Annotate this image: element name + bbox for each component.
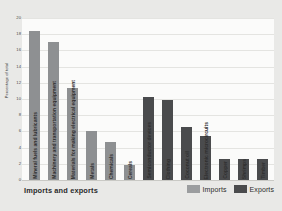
legend-swatch (187, 185, 200, 193)
bar-slot: Shrimps (234, 18, 253, 180)
bar[interactable] (124, 165, 135, 180)
legend-label: Imports (203, 186, 227, 193)
bar-slot: Clothing (158, 18, 177, 180)
y-axis-tick-label: 4 (12, 145, 21, 149)
bar[interactable] (29, 31, 40, 180)
legend-label: Exports (250, 186, 274, 193)
y-axis-tick-label: 6 (12, 129, 21, 133)
bar-slot: Coconut oil (177, 18, 196, 180)
bar[interactable] (257, 159, 268, 180)
legend-swatch (234, 185, 247, 193)
y-axis-tick-label: 20 (12, 16, 21, 20)
bar-slot: Cereals (120, 18, 139, 180)
legend: ImportsExports (187, 185, 274, 193)
bar[interactable] (105, 142, 116, 180)
chart-title: Imports and exports (24, 186, 98, 195)
bar[interactable] (143, 97, 154, 180)
bar-slot: Machinery and transportation equipment (44, 18, 63, 180)
bar[interactable] (200, 136, 211, 180)
bar-slot: Copper (215, 18, 234, 180)
y-axis-tick-label: 16 (12, 48, 21, 52)
chart-footer: Imports and exports ImportsExports (0, 182, 282, 211)
y-axis-tick-label: 8 (12, 113, 21, 117)
y-axis-tick-label: 2 (12, 162, 21, 166)
legend-item[interactable]: Imports (187, 185, 227, 193)
bar[interactable] (181, 127, 192, 180)
y-axis-tick-label: 12 (12, 81, 21, 85)
bar-slot: Chemicals (101, 18, 120, 180)
bar[interactable] (48, 42, 59, 180)
plot-area: Mineral fuels and lubricantsMachinery an… (22, 18, 274, 180)
bar-slot: Electronic microcircuits (196, 18, 215, 180)
bar[interactable] (238, 159, 249, 180)
bar[interactable] (162, 100, 173, 180)
y-axis-tick-labels: 02468101214161820 (10, 18, 21, 180)
gridline (22, 180, 274, 181)
bar-slot: Materials for making electrical equipmen… (63, 18, 82, 180)
y-axis-tick-label: 10 (12, 97, 21, 101)
bar-slot: Semiconductor devices (139, 18, 158, 180)
y-axis-title-text: Percentage of total (4, 63, 9, 98)
bar[interactable] (67, 88, 78, 180)
bar[interactable] (86, 131, 97, 180)
bar[interactable] (219, 159, 230, 180)
legend-item[interactable]: Exports (234, 185, 274, 193)
bar-group: Mineral fuels and lubricantsMachinery an… (22, 18, 274, 180)
bar-slot: Mineral fuels and lubricants (25, 18, 44, 180)
y-axis-tick-label: 14 (12, 64, 21, 68)
bar-slot: Timber (253, 18, 272, 180)
chart-figure: Percentage of total 02468101214161820 Mi… (0, 0, 282, 211)
y-axis-tick-label: 18 (12, 32, 21, 36)
bar-slot: Metals (82, 18, 101, 180)
